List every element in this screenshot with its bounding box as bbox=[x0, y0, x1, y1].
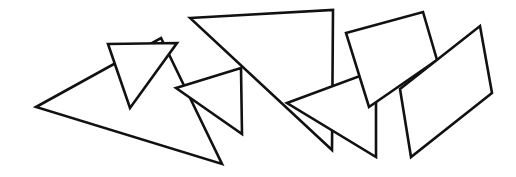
shapes-canvas bbox=[0, 0, 516, 177]
